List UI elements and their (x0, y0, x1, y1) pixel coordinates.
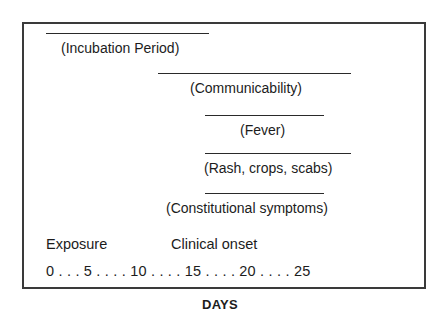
fever-bar (205, 115, 324, 116)
days-axis-scale: 0 . . . 5 . . . . 10 . . . . 15 . . . . … (46, 263, 310, 279)
communicability-bar (158, 73, 351, 74)
incubation-bar (46, 33, 209, 34)
exposure-label: Exposure (46, 236, 107, 252)
clinical-onset-label: Clinical onset (171, 236, 257, 252)
rash-bar (205, 153, 351, 154)
rash-label: (Rash, crops, scabs) (204, 160, 332, 176)
fever-label: (Fever) (240, 122, 285, 138)
days-axis-title: DAYS (0, 297, 440, 312)
communicability-label: (Communicability) (190, 80, 302, 96)
constitutional-label: (Constitutional symptoms) (166, 200, 328, 216)
incubation-label: (Incubation Period) (61, 40, 179, 56)
constitutional-bar (205, 193, 324, 194)
